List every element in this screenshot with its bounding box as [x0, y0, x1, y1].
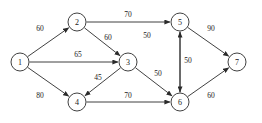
node-1[interactable]: 1: [11, 53, 29, 71]
edge-weight-6-7: 60: [207, 91, 215, 100]
node-label-2: 2: [75, 18, 79, 27]
edge-weight-2-3: 60: [104, 33, 112, 42]
node-label-5: 5: [178, 18, 182, 27]
node-2[interactable]: 2: [68, 13, 86, 31]
edge-weight-1-2: 60: [36, 24, 44, 33]
node-6[interactable]: 6: [171, 93, 189, 111]
edge-weight-3-4: 45: [94, 73, 102, 82]
edge-3-to-4: [85, 68, 120, 96]
node-label-4: 4: [75, 98, 79, 107]
node-label-7: 7: [235, 58, 239, 67]
edge-2-to-3: [84, 28, 119, 56]
edge-weight-1-3: 65: [74, 50, 82, 59]
node-7[interactable]: 7: [228, 53, 246, 71]
edge-1-to-2: [28, 28, 69, 57]
edge-weight-5-6: 50: [184, 56, 192, 65]
edge-1-to-4: [28, 67, 69, 96]
node-label-1: 1: [18, 58, 22, 67]
node-3[interactable]: 3: [119, 53, 137, 71]
edge-weight-1-4: 80: [36, 91, 44, 100]
edge-weight-5-7: 90: [207, 24, 215, 33]
node-label-3: 3: [126, 58, 130, 67]
network-diagram: 606580706045507050509060 1234567: [0, 0, 262, 123]
edge-weight-2-5: 70: [124, 10, 132, 19]
network-diagram-canvas: 606580706045507050509060 1234567: [0, 0, 262, 123]
node-5[interactable]: 5: [171, 13, 189, 31]
edge-weight-6-5: 50: [143, 31, 151, 40]
node-4[interactable]: 4: [68, 93, 86, 111]
edge-weight-3-6: 50: [154, 69, 162, 78]
edge-weight-4-6: 70: [124, 91, 132, 100]
node-label-6: 6: [178, 98, 182, 107]
